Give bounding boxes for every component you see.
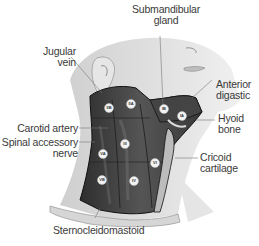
- neck-lymph-node-diagram: IIBIIAIBIAIIIVAVIVBIV Submandibular glan…: [0, 0, 259, 246]
- svg-text:III: III: [123, 141, 126, 146]
- label-line: nerve: [0, 148, 78, 159]
- svg-text:VB: VB: [99, 177, 105, 182]
- svg-text:IV: IV: [132, 178, 136, 183]
- label-carotid-artery: Carotid artery: [4, 123, 78, 134]
- level-marker-ib: IB: [160, 105, 169, 114]
- level-marker-iia: IIA: [127, 100, 136, 109]
- label-cricoid-cartilage: Cricoid cartilage: [200, 152, 238, 174]
- label-submandibular-gland: Submandibular gland: [132, 4, 200, 26]
- svg-text:VA: VA: [100, 151, 105, 156]
- label-anterior-digastic: Anterior digastic: [216, 79, 251, 101]
- label-line: vein: [40, 57, 76, 68]
- label-line: bone: [218, 124, 244, 135]
- label-line: Sternocleidomastoid: [53, 225, 144, 236]
- label-sternocleidomastoid: Sternocleidomastoid: [53, 225, 144, 236]
- label-line: gland: [132, 15, 200, 26]
- label-jugular-vein: Jugular vein: [40, 46, 76, 68]
- level-marker-iii: III: [121, 140, 130, 149]
- svg-text:IIA: IIA: [128, 101, 133, 106]
- level-marker-va: VA: [99, 150, 108, 159]
- level-marker-iib: IIB: [105, 104, 114, 113]
- svg-text:IA: IA: [180, 113, 184, 118]
- svg-text:IIB: IIB: [106, 105, 111, 110]
- label-line: Carotid artery: [4, 123, 78, 134]
- level-marker-ia: IA: [178, 112, 187, 121]
- label-line: digastic: [216, 90, 251, 101]
- level-marker-vb: VB: [98, 176, 107, 185]
- level-marker-iv: IV: [130, 177, 139, 186]
- level-marker-vi: VI: [151, 159, 160, 168]
- svg-text:VI: VI: [153, 160, 157, 165]
- label-line: cartilage: [200, 163, 238, 174]
- svg-text:IB: IB: [162, 106, 166, 111]
- label-spinal-accessory-nerve: Spinal accessory nerve: [0, 137, 78, 159]
- label-hyoid-bone: Hyoid bone: [218, 113, 244, 135]
